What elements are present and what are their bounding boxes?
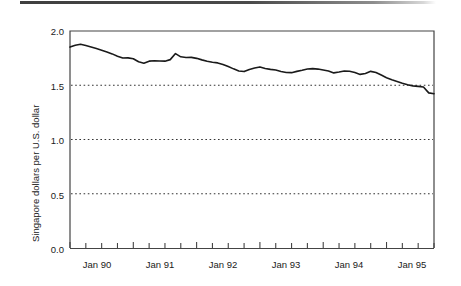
x-tick-label-jan-90: Jan 90	[83, 259, 112, 270]
y-tick-label-0-5: 0.5	[51, 190, 64, 201]
y-tick-labels: 2.0 1.5 1.0 0.5 0.0	[51, 26, 64, 255]
x-tick-label-jan-95: Jan 95	[398, 259, 427, 270]
x-tick-label-jan-94: Jan 94	[335, 259, 364, 270]
data-series-group	[70, 44, 434, 93]
chart-figure: Singapore dollars per U.S. dollar 2.0 1.…	[0, 0, 461, 286]
y-tick-label-1-0: 1.0	[51, 135, 64, 146]
x-tick-labels: Jan 90 Jan 91 Jan 92 Jan 93 Jan 94 Jan 9…	[83, 259, 427, 270]
header-rule	[20, 1, 436, 4]
y-tick-label-0-0: 0.0	[51, 244, 64, 255]
gridlines	[71, 85, 433, 194]
data-series-line	[70, 44, 434, 93]
y-axis-title: Singapore dollars per U.S. dollar	[30, 105, 41, 242]
y-tick-label-2-0: 2.0	[51, 26, 64, 37]
y-tick-label-1-5: 1.5	[51, 81, 64, 92]
y-axis-title-text: Singapore dollars per U.S. dollar	[30, 105, 41, 242]
x-axis-ticks	[70, 242, 434, 248]
line-chart: Singapore dollars per U.S. dollar 2.0 1.…	[0, 0, 461, 286]
x-tick-label-jan-91: Jan 91	[146, 259, 175, 270]
x-tick-label-jan-93: Jan 93	[272, 259, 301, 270]
x-tick-label-jan-92: Jan 92	[209, 259, 238, 270]
